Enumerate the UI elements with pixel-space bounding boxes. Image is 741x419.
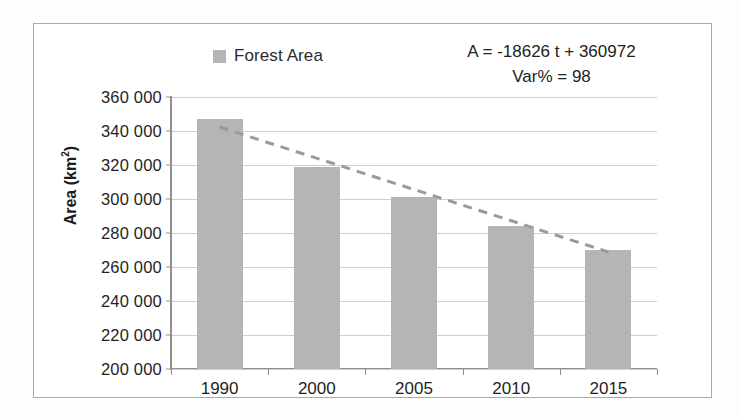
x-axis-tick-label-2015: 2015: [589, 379, 627, 399]
y-axis-tick-label: 300 000: [101, 190, 162, 209]
gridline: [171, 369, 657, 370]
y-axis-tick-mark: [166, 131, 171, 132]
y-axis-title-text: Area (km: [62, 157, 79, 225]
annotation-regression-equation: A = -18626 t + 360972: [414, 40, 689, 65]
gridline: [171, 97, 657, 98]
y-axis-tick-mark: [166, 335, 171, 336]
x-axis-tick-label-2000: 2000: [298, 379, 336, 399]
y-axis-title-superscript: 2: [60, 151, 71, 157]
y-axis-tick-label: 260 000: [101, 258, 162, 277]
y-axis-tick-label: 360 000: [101, 88, 162, 107]
y-axis-tick-mark: [166, 97, 171, 98]
legend-swatch-forest-area: [213, 50, 226, 63]
y-axis-tick-mark: [166, 301, 171, 302]
bar-1990: [197, 119, 243, 369]
gridline: [171, 165, 657, 166]
plot-area: 360 000340 000320 000300 000280 000260 0…: [171, 97, 657, 369]
bar-2000: [294, 167, 340, 369]
y-axis-tick-label: 340 000: [101, 122, 162, 141]
x-axis-tick-mark: [560, 369, 561, 375]
y-axis-tick-mark: [166, 267, 171, 268]
x-axis-tick-mark: [171, 369, 172, 375]
bar-2010: [488, 226, 534, 369]
page-background: Forest Area A = -18626 t + 360972 Var% =…: [0, 0, 741, 419]
legend-label-forest-area: Forest Area: [234, 46, 323, 66]
y-axis-tick-label: 220 000: [101, 326, 162, 345]
y-axis-tick-mark: [166, 165, 171, 166]
y-axis-tick-label: 200 000: [101, 360, 162, 379]
y-axis-tick-mark: [166, 233, 171, 234]
chart-annotations: A = -18626 t + 360972 Var% = 98: [414, 40, 689, 89]
y-axis-tick-mark: [166, 199, 171, 200]
x-axis-tick-label-2005: 2005: [395, 379, 433, 399]
gridline: [171, 131, 657, 132]
y-axis-tick-label: 240 000: [101, 292, 162, 311]
x-axis-tick-mark: [463, 369, 464, 375]
chart-legend: Forest Area: [213, 46, 323, 66]
annotation-variance-percent: Var% = 98: [414, 65, 689, 90]
y-axis-title: Area (km2): [60, 126, 79, 246]
x-axis-tick-mark: [268, 369, 269, 375]
bar-2005: [391, 197, 437, 369]
x-axis-tick-mark: [657, 369, 658, 375]
x-axis-tick-label-2010: 2010: [492, 379, 530, 399]
y-axis-tick-label: 320 000: [101, 156, 162, 175]
y-axis-tick-label: 280 000: [101, 224, 162, 243]
bar-2015: [585, 250, 631, 369]
y-axis-title-close: ): [62, 146, 79, 151]
chart-container: Forest Area A = -18626 t + 360972 Var% =…: [33, 23, 712, 398]
x-axis-tick-mark: [365, 369, 366, 375]
x-axis-tick-label-1990: 1990: [201, 379, 239, 399]
